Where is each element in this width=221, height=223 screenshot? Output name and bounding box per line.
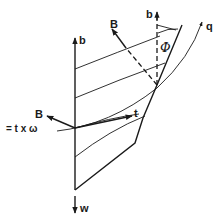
label-B-left: B: [35, 108, 43, 120]
ribbon-diagram: b b B B = t x ω t Φ q w: [0, 0, 221, 223]
label-b-left: b: [79, 34, 86, 46]
label-q: q: [206, 20, 213, 32]
strand-curve-3: [75, 116, 145, 157]
B-dashed: [126, 48, 157, 85]
phi-arc: [157, 25, 176, 30]
B-top-arrow: [112, 29, 126, 48]
B-left-arrow: [47, 116, 75, 128]
label-w: w: [79, 202, 89, 214]
label-B-top: B: [110, 18, 118, 30]
diagram-svg: b b B B = t x ω t Φ q w: [0, 0, 221, 223]
label-B-def: = t x ω: [6, 123, 38, 134]
label-b-right: b: [146, 8, 153, 20]
strand-curve-1: [75, 36, 160, 69]
label-phi: Φ: [160, 40, 171, 55]
label-t: t: [134, 107, 138, 119]
